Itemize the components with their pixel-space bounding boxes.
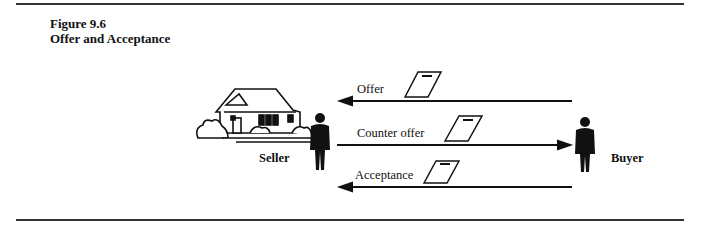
offer-arrowhead-icon [340,97,352,105]
counter-offer-arrowhead-icon [558,141,570,149]
acceptance-arrowhead-icon [340,183,352,191]
offer-label: Offer [357,82,384,97]
buyer-label: Buyer [611,151,644,166]
counter-offer-label: Counter offer [357,126,424,141]
seller-figure-icon [310,113,330,170]
counter-offer-document-icon [445,116,482,141]
buyer-figure-icon [575,117,595,172]
offer-document-icon [405,72,441,97]
house-icon [197,89,315,142]
seller-label: Seller [259,151,290,166]
offer-acceptance-diagram [0,0,718,228]
acceptance-document-icon [424,161,459,183]
acceptance-label: Acceptance [355,168,413,183]
